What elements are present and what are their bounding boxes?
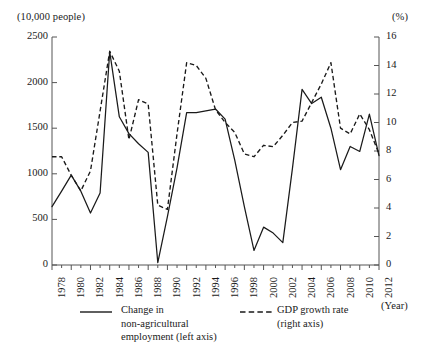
legend-entry-gdp-growth: GDP growth rate (right axis) — [277, 303, 348, 330]
series-line-nonagri-employment — [52, 52, 379, 263]
legend-entry-nonagri-employment: Change in non-agricultural employment (l… — [121, 303, 217, 344]
axes-lines — [52, 37, 379, 265]
chart-figure: (10,000 people) (%) (Year) 0500100015002… — [0, 0, 437, 351]
chart-legend: Change in non-agricultural employment (l… — [0, 297, 437, 351]
legend-swatch-solid — [80, 307, 112, 317]
legend-swatch-dashed — [240, 307, 272, 317]
legend-label-line2: non-agricultural — [121, 317, 217, 331]
legend-label-line1: GDP growth rate — [277, 303, 348, 317]
legend-label-line3: employment (left axis) — [121, 330, 217, 344]
legend-label-line1: Change in — [121, 303, 217, 317]
legend-label-line2: (right axis) — [277, 317, 348, 331]
axis-tick-marks — [52, 37, 379, 270]
